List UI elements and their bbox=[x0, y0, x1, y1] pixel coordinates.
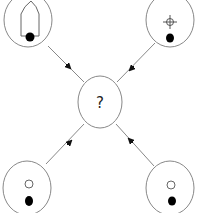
black-dot-icon bbox=[166, 34, 174, 43]
edge-top-left bbox=[48, 46, 84, 82]
black-dot-icon bbox=[26, 33, 35, 42]
diagram-canvas: ? bbox=[0, 0, 197, 213]
open-circle-icon bbox=[25, 180, 33, 188]
edge-bottom-left bbox=[46, 124, 84, 164]
node-top-left bbox=[4, 0, 52, 47]
center-node: ? bbox=[78, 76, 122, 128]
node-top-right bbox=[146, 0, 194, 47]
open-circle-icon bbox=[167, 181, 175, 189]
node-bottom-left bbox=[3, 161, 51, 213]
edge-top-right bbox=[117, 43, 155, 82]
black-dot-icon bbox=[168, 197, 176, 206]
question-mark-label: ? bbox=[96, 94, 104, 112]
node-bottom-right bbox=[146, 161, 194, 213]
edge-bottom-right bbox=[116, 124, 154, 166]
black-dot-icon bbox=[25, 196, 33, 206]
